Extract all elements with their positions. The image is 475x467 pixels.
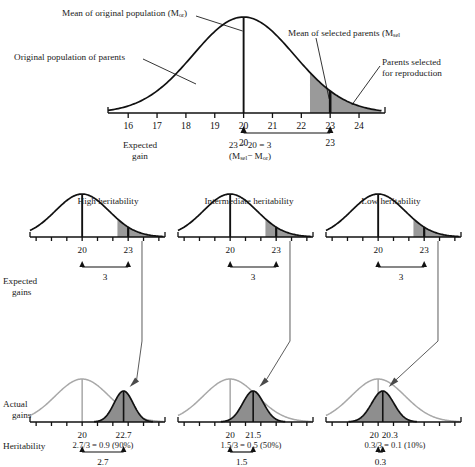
callout-parents-selected: Parents selected for reproduction xyxy=(382,57,442,78)
svg-text:16: 16 xyxy=(123,120,133,131)
callout-original-population: Original population of parents xyxy=(14,52,125,63)
svg-text:22.7: 22.7 xyxy=(116,430,132,440)
svg-text:17: 17 xyxy=(152,120,162,131)
svg-text:1.5: 1.5 xyxy=(236,457,248,467)
svg-text:24: 24 xyxy=(354,120,364,131)
heritability-formula-1: 1.5/3 = 0.5 (50%) xyxy=(186,441,316,451)
svg-text:23: 23 xyxy=(420,245,430,255)
svg-text:20.3: 20.3 xyxy=(382,430,398,440)
top-distribution-chart: 1617181920212223242023 xyxy=(0,0,475,190)
svg-text:3: 3 xyxy=(103,272,108,282)
svg-text:20: 20 xyxy=(226,245,236,255)
svg-text:20: 20 xyxy=(370,430,380,440)
heritability-formula-2: 0.3/3 = 0.1 (10%) xyxy=(330,441,460,451)
svg-text:2.7: 2.7 xyxy=(97,457,109,467)
expected-gain-label: Expected gain xyxy=(105,140,175,161)
svg-text:23: 23 xyxy=(124,245,134,255)
svg-text:20: 20 xyxy=(226,430,236,440)
svg-text:22: 22 xyxy=(297,120,307,131)
svg-text:18: 18 xyxy=(181,120,191,131)
svg-text:3: 3 xyxy=(399,272,404,282)
svg-text:0.3: 0.3 xyxy=(375,457,387,467)
callout-mean-selected: Mean of selected parents (Msel xyxy=(288,28,400,39)
expected-gain-equation-symbols: (Msel− Mor) xyxy=(195,151,305,162)
svg-text:19: 19 xyxy=(210,120,220,131)
row-label-expected-gains: Expected gains xyxy=(3,276,37,297)
heritability-panels-chart: 202332022.72.7202332021.51.5202332020.30… xyxy=(0,187,475,467)
column-title-1: Intermediate heritability xyxy=(180,196,318,207)
callout-mean-original: Mean of original population (Mor) xyxy=(62,8,187,19)
row-label-actual-gains: Actual gains xyxy=(3,399,31,420)
svg-text:3: 3 xyxy=(251,272,256,282)
column-title-2: Low heritability xyxy=(332,196,450,207)
heritability-formula-0: 2.7/3 = 0.9 (90%) xyxy=(38,441,168,451)
svg-text:20: 20 xyxy=(374,245,384,255)
svg-text:23: 23 xyxy=(325,138,335,148)
svg-text:21: 21 xyxy=(268,120,278,131)
expected-gain-equation: 23 − 20 = 3 (Msel− Mor) xyxy=(195,140,305,161)
svg-text:23: 23 xyxy=(272,245,282,255)
svg-text:20: 20 xyxy=(78,245,88,255)
column-title-0: High heritability xyxy=(48,196,168,207)
svg-text:20: 20 xyxy=(78,430,88,440)
svg-text:21.5: 21.5 xyxy=(245,430,261,440)
